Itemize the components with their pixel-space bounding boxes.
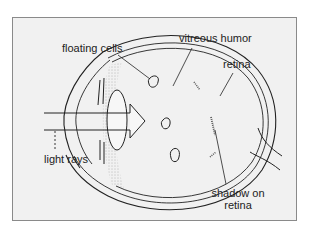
leader-floating-cells [118, 55, 150, 79]
label-light-rays: light rays [44, 153, 88, 165]
optic-nerve [258, 128, 282, 156]
arrow-head [130, 104, 145, 138]
label-shadow-line1: shadow on [208, 187, 268, 199]
label-retina: retina [223, 58, 251, 70]
label-shadow-line2: retina [208, 199, 268, 211]
floating-cell-2 [161, 118, 170, 129]
leader-retina [220, 73, 233, 96]
label-floating-cells: floating cells [62, 42, 123, 54]
floating-cell-3 [170, 148, 179, 161]
label-vitreous-humor: vitreous humor [179, 32, 252, 44]
leader-shadow [215, 130, 226, 184]
floating-cell-1 [148, 76, 158, 87]
label-shadow-on-retina: shadow on retina [208, 187, 268, 211]
lens [107, 90, 127, 150]
leader-vitreous-humor [173, 48, 192, 86]
